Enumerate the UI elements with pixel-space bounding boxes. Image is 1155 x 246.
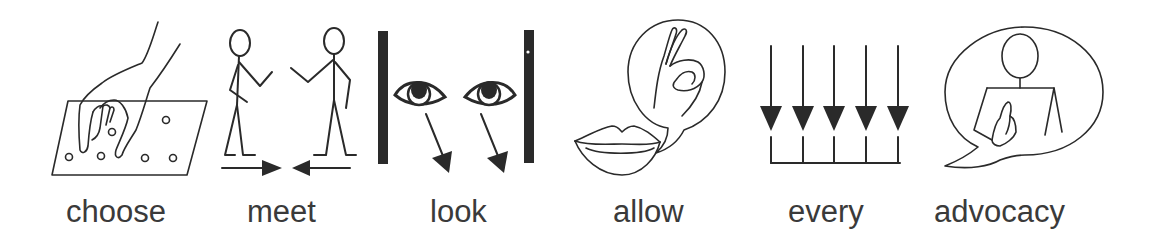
symbol-allow: allow <box>560 0 740 246</box>
eyes-looking-down-icon <box>370 0 550 190</box>
symbol-meet: meet <box>210 0 370 246</box>
two-people-meeting-icon <box>210 0 370 190</box>
symbol-label: meet <box>247 194 316 230</box>
symbol-look: look <box>370 0 550 246</box>
symbol-label: allow <box>613 194 684 230</box>
symbol-label: look <box>430 194 487 230</box>
person-speech-bubble-icon <box>920 0 1155 190</box>
symbol-label: choose <box>66 194 166 230</box>
symbol-label: every <box>788 194 864 230</box>
symbol-label: advocacy <box>934 194 1065 230</box>
symbol-choose: choose <box>0 0 220 246</box>
lips-with-ok-sign-icon <box>560 0 740 190</box>
five-arrows-converging-icon <box>740 0 920 190</box>
hand-picking-from-board-icon <box>0 0 220 190</box>
symbol-every: every <box>740 0 920 246</box>
symbol-advocacy: advocacy <box>920 0 1155 246</box>
